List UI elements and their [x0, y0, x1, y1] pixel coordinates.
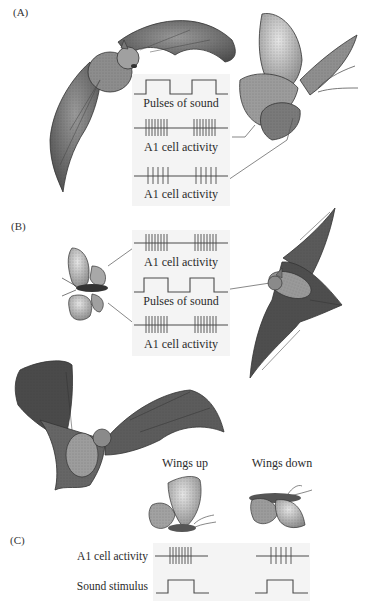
row-label-activity: A1 cell activity [60, 550, 148, 562]
column-header-wings-up: Wings up [150, 456, 220, 471]
sound-stimulus-c-wings-down [255, 577, 309, 597]
spike-train-c-wings-up [155, 546, 209, 566]
column-header-wings-down: Wings down [244, 456, 320, 471]
sound-stimulus-c-wings-up [156, 577, 210, 597]
bat-and-moths-illustration-c [0, 0, 367, 609]
row-label-stimulus: Sound stimulus [60, 580, 148, 592]
panel-label-c: (C) [10, 534, 25, 546]
spike-train-c-wings-down [256, 546, 310, 566]
